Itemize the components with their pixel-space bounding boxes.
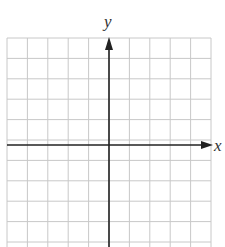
y-axis-arrow-icon — [105, 37, 113, 50]
x-axis — [7, 141, 213, 149]
coordinate-grid: x y — [0, 0, 225, 247]
y-axis — [105, 37, 113, 247]
y-axis-label: y — [102, 12, 112, 31]
x-axis-label: x — [213, 136, 222, 155]
